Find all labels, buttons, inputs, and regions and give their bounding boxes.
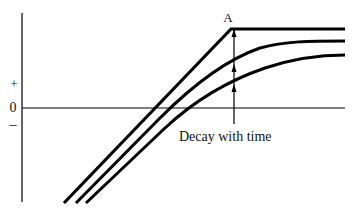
minus-label: – [9, 117, 18, 132]
peak-label: A [223, 10, 233, 25]
curve-decay-1 [76, 41, 345, 203]
arrowhead-low [232, 84, 237, 92]
arrowhead-mid [232, 64, 237, 72]
plus-label: + [10, 76, 17, 91]
zero-label: 0 [10, 100, 17, 115]
curve-initial [64, 29, 345, 203]
decay-annotation: Decay with time [179, 129, 272, 144]
decay-diagram: A + 0 – Decay with time [0, 0, 354, 216]
